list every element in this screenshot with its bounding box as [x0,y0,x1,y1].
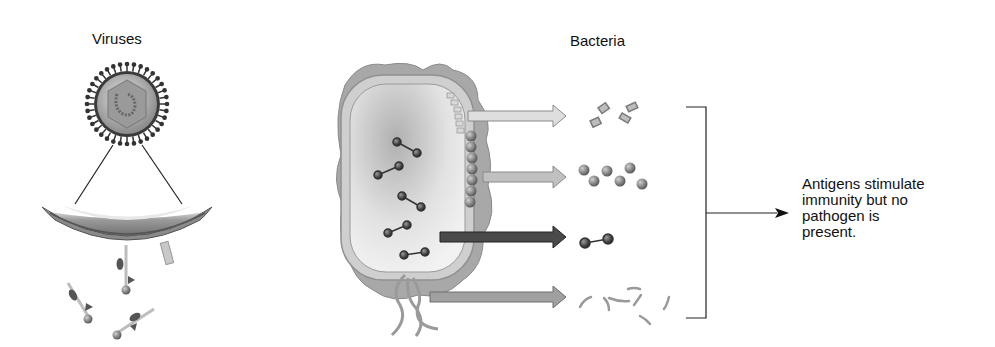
bracket [686,107,706,318]
diagram-canvas [0,0,995,347]
virus-membrane-section [42,205,212,240]
virus-particle [85,62,168,145]
result-arrow-icon [706,208,789,218]
capsule-fragments-icon [590,102,638,127]
magnify-lines [75,145,182,204]
protein-spheres-icon [579,163,648,190]
viral-antigens [67,241,174,339]
toxoid-icon [580,234,613,248]
flagella-fragments-icon [580,288,669,324]
arrow-surface-proteins [483,166,566,188]
